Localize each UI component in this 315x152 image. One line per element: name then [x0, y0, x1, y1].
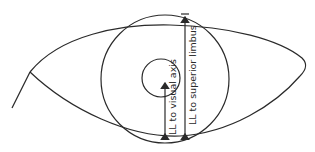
label-superior-limbus: LL to superior limbus [187, 25, 198, 125]
eye-diagram: LL to visual axis LL to superior limbus [0, 0, 315, 152]
label-visual-axis: LL to visual axis [167, 59, 178, 135]
eyelid-crease-line [12, 72, 30, 108]
eye-outline [12, 25, 306, 136]
